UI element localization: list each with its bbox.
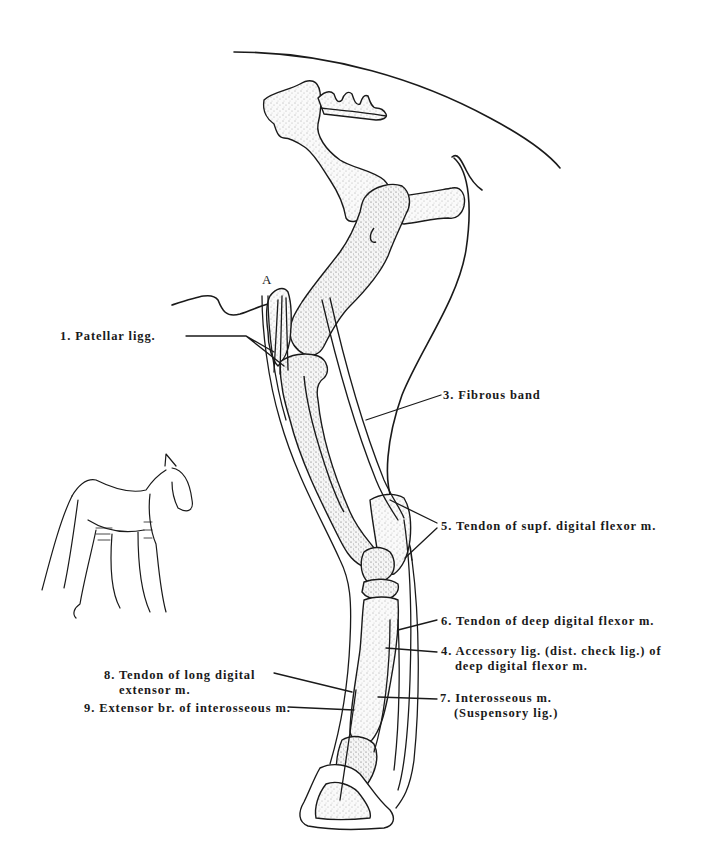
tarsal-bones [361,548,394,584]
label-long-digital-extensor: 8. Tendon of long digital extensor m. [104,668,255,698]
label-fibrous-band: 3. Fibrous band [443,388,541,403]
horse-inset-sketch [42,454,192,618]
hind-limb-illustration [0,0,727,860]
reference-marker-a: A [262,272,271,288]
femur [290,184,465,355]
label-extensor-branch: 9. Extensor br. of interosseous m. [84,701,291,716]
label-supf-digital-flexor: 5. Tendon of supf. digital flexor m. [441,519,656,534]
flank-outline [172,296,268,315]
label-interosseous: 7. Interosseous m. (Suspensory lig.) [440,691,558,721]
label-patellar-ligaments: 1. Patellar ligg. [60,329,156,344]
anatomy-figure: A 1. Patellar ligg. 3. Fibrous band 5. T… [0,0,727,860]
cannon-bone [350,597,398,743]
label-accessory-ligament: 4. Accessory lig. (dist. check lig.) of … [441,644,662,674]
label-deep-digital-flexor: 6. Tendon of deep digital flexor m. [441,614,654,629]
